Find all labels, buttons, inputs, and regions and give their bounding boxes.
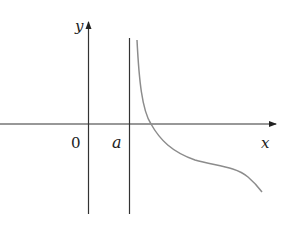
asymptote-label: a xyxy=(112,133,122,152)
y-axis-label: y xyxy=(74,17,84,35)
x-axis-label: x xyxy=(261,134,270,152)
function-curve xyxy=(137,40,262,192)
function-graph: y x 0 a xyxy=(0,0,281,228)
origin-label: 0 xyxy=(71,134,81,152)
